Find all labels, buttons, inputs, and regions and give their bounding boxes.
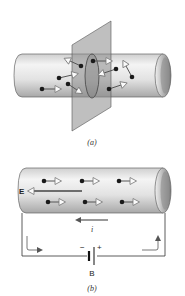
caption-a: (a) (87, 138, 97, 147)
battery-plus: + (97, 243, 102, 252)
charge-dot (40, 87, 45, 92)
charge-dot (57, 76, 62, 81)
charge-dot (79, 64, 84, 69)
charge-dot (107, 87, 112, 92)
figure-canvas: (a) E (0, 0, 185, 296)
battery-minus: − (80, 243, 85, 252)
cross-section-plane (72, 21, 111, 131)
current-arrow: i (78, 220, 108, 234)
charge-dot (130, 75, 135, 80)
battery-label: B (89, 269, 94, 278)
panel-b: E i − + (18, 168, 171, 293)
battery: − + B (80, 243, 102, 278)
flow-arrow-right (142, 238, 158, 250)
flow-arrow-left (27, 236, 40, 250)
charge-dot (114, 67, 119, 72)
charge-dot (91, 59, 96, 64)
field-label: E (19, 187, 25, 196)
charge-dot (66, 82, 71, 87)
current-label: i (91, 225, 93, 234)
panel-a: (a) (14, 21, 171, 147)
caption-b: (b) (87, 284, 97, 293)
